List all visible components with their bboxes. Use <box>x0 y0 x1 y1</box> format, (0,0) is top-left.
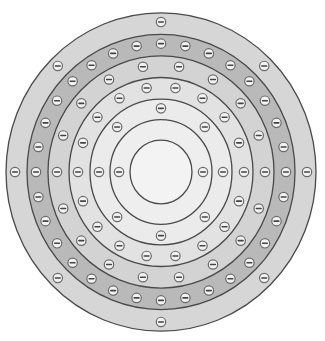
electron-icon <box>138 272 147 281</box>
electron-icon <box>174 272 183 281</box>
electron-icon <box>156 17 165 26</box>
electron-icon <box>279 142 288 151</box>
electron-icon <box>53 61 62 70</box>
electron-icon <box>254 131 263 140</box>
electron-icon <box>220 113 229 122</box>
electron-icon <box>200 122 209 131</box>
electron-icon <box>208 75 217 84</box>
electron-icon <box>114 167 123 176</box>
electron-icon <box>112 122 121 131</box>
electron-icon <box>260 61 269 70</box>
electron-icon <box>198 167 207 176</box>
electron-icon <box>226 274 235 283</box>
electron-icon <box>52 167 61 176</box>
electron-icon <box>53 273 62 282</box>
electron-icon <box>281 167 290 176</box>
electron-icon <box>52 96 61 105</box>
electron-icon <box>34 142 43 151</box>
electron-icon <box>52 239 61 248</box>
electron-icon <box>204 49 213 58</box>
electron-icon <box>87 274 96 283</box>
electron-icon <box>260 239 269 248</box>
electron-icon <box>132 293 141 302</box>
electron-icon <box>78 138 87 147</box>
electron-icon <box>245 258 254 267</box>
electron-icon <box>181 41 190 50</box>
electron-icon <box>104 75 113 84</box>
electron-icon <box>245 77 254 86</box>
electron-icon <box>200 212 209 221</box>
electron-icon <box>208 260 217 269</box>
electron-icon <box>73 167 82 176</box>
electron-icon <box>132 41 141 50</box>
electron-icon <box>279 192 288 201</box>
electron-icon <box>93 222 102 231</box>
electron-icon <box>260 167 269 176</box>
electron-icon <box>260 273 269 282</box>
electron-icon <box>198 93 207 102</box>
electron-icon <box>108 49 117 58</box>
electron-icon <box>34 192 43 201</box>
electron-icon <box>138 62 147 71</box>
electron-icon <box>156 296 165 305</box>
electron-icon <box>234 138 243 147</box>
electron-icon <box>260 96 269 105</box>
electron-icon <box>77 236 86 245</box>
nucleus <box>130 140 192 204</box>
electron-icon <box>31 167 40 176</box>
electron-icon <box>142 251 151 260</box>
electron-icon <box>204 286 213 295</box>
electron-icon <box>156 317 165 326</box>
electron-icon <box>234 196 243 205</box>
electron-icon <box>254 204 263 213</box>
electron-icon <box>226 61 235 70</box>
electron-icon <box>156 39 165 48</box>
electron-icon <box>87 61 96 70</box>
electron-icon <box>198 241 207 250</box>
electron-icon <box>41 118 50 127</box>
electron-icon <box>174 62 183 71</box>
electron-icon <box>236 236 245 245</box>
electron-icon <box>77 99 86 108</box>
electron-icon <box>41 216 50 225</box>
electron-icon <box>171 251 180 260</box>
electron-icon <box>236 99 245 108</box>
nucleus-circle <box>130 140 192 204</box>
electron-icon <box>115 93 124 102</box>
electron-icon <box>239 167 248 176</box>
electron-icon <box>115 241 124 250</box>
electron-icon <box>68 258 77 267</box>
electron-icon <box>59 131 68 140</box>
electron-icon <box>93 113 102 122</box>
electron-icon <box>94 167 103 176</box>
atom-shell-diagram <box>0 0 325 341</box>
electron-icon <box>302 167 311 176</box>
electron-icon <box>59 204 68 213</box>
electron-icon <box>156 231 165 240</box>
electron-icon <box>78 196 87 205</box>
electron-icon <box>218 167 227 176</box>
electron-icon <box>220 222 229 231</box>
electron-icon <box>108 286 117 295</box>
electron-icon <box>181 293 190 302</box>
electron-icon <box>171 83 180 92</box>
electron-icon <box>142 83 151 92</box>
electron-icon <box>104 260 113 269</box>
electron-icon <box>68 77 77 86</box>
electron-icon <box>272 216 281 225</box>
electron-icon <box>112 212 121 221</box>
electron-icon <box>272 118 281 127</box>
electron-icon <box>10 167 19 176</box>
electron-icon <box>156 104 165 113</box>
